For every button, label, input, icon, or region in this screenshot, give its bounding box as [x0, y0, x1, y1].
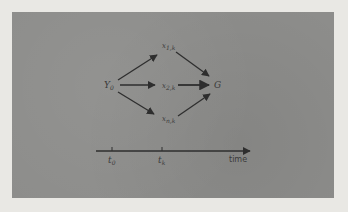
edge-start-bottom	[118, 92, 154, 114]
node-start-label: Y0	[104, 80, 114, 93]
node-bottom-sub: n,k	[166, 117, 175, 124]
tick-tk-sub: k	[162, 159, 166, 166]
tick-tk-label: tk	[158, 155, 165, 168]
node-goal-label: G	[214, 80, 221, 90]
node-goal-base: G	[214, 80, 221, 90]
tick-t0-sub: 0	[112, 159, 116, 166]
node-middle-label: x2,k	[162, 81, 175, 93]
node-start-sub: 0	[110, 84, 114, 91]
edge-bottom-goal	[178, 94, 210, 116]
node-middle-sub: 2,k	[166, 84, 175, 91]
time-axis-label: time	[229, 155, 247, 164]
edge-top-goal	[176, 52, 209, 76]
diagram-canvas	[0, 0, 348, 212]
node-top-label: x1,k	[162, 41, 175, 53]
node-bottom-label: xn,k	[162, 114, 175, 126]
node-top-sub: 1,k	[166, 44, 175, 51]
tick-t0-label: t0	[108, 155, 115, 168]
edge-start-top	[118, 55, 157, 80]
